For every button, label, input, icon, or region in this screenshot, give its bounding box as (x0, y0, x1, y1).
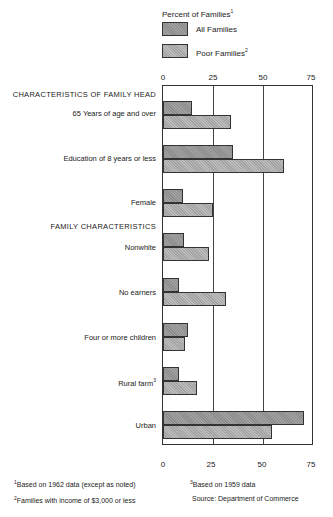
bar-poor-education (163, 159, 284, 173)
category-label: 65 Years of age and over (73, 109, 156, 118)
legend-label-text: Poor Families (196, 49, 245, 58)
category-label-text: Female (131, 198, 156, 207)
bar-poor-urban (163, 425, 272, 439)
bar-all-rural-farm (163, 367, 179, 381)
bar-poor-65-and-over (163, 115, 231, 129)
category-label-text: Four or more children (84, 333, 156, 342)
bar-poor-four-children (163, 337, 185, 351)
category-label: Nonwhite (125, 243, 156, 252)
legend-label-all-families: All Families (196, 25, 237, 34)
source-note: Source: Department of Commerce (192, 495, 299, 502)
section-family-characteristics: FAMILY CHARACTERISTICS (50, 222, 156, 231)
category-label: Four or more children (84, 333, 156, 342)
category-label-text: No earners (119, 288, 156, 297)
bottom-tick-50: 50 (258, 460, 267, 469)
category-label-text: 65 Years of age and over (73, 109, 156, 118)
bar-all-65-and-over (163, 101, 192, 115)
legend-swatch-poor-families (162, 44, 188, 58)
category-label: Urban (136, 421, 156, 430)
footnote-marker: 1 (230, 8, 233, 14)
footnote-marker: 3 (153, 377, 156, 383)
category-label-text: Urban (136, 421, 156, 430)
footnote-text: Based on 1962 data (except as noted) (17, 481, 136, 488)
legend-label-poor-families: Poor Families2 (196, 47, 248, 58)
bottom-tick-25: 25 (207, 460, 216, 469)
plot-area (162, 85, 313, 445)
gridline-25 (213, 86, 214, 444)
bar-poor-female (163, 203, 213, 217)
footnote-2: 2Families with income of $3,000 or less (14, 495, 135, 504)
category-label-text: Rural farm (118, 379, 153, 388)
category-label: Rural farm3 (118, 377, 156, 388)
top-tick-75: 75 (307, 73, 316, 82)
bar-all-urban (163, 411, 304, 425)
bar-all-no-earners (163, 278, 179, 292)
bar-poor-nonwhite (163, 247, 209, 261)
bar-all-nonwhite (163, 233, 184, 247)
legend-title: Percent of Families1 (162, 8, 233, 19)
footnote-text: Families with income of $3,000 or less (17, 497, 136, 504)
category-label: No earners (119, 288, 156, 297)
bottom-tick-75: 75 (307, 460, 316, 469)
section-family-head: CHARACTERISTICS OF FAMILY HEAD (13, 90, 156, 99)
category-label-text: Nonwhite (125, 243, 156, 252)
bar-all-four-children (163, 323, 188, 337)
footnote-3: 3Based on 1959 data (190, 479, 255, 488)
footnote-text: Based on 1959 data (193, 481, 256, 488)
bottom-tick-0: 0 (161, 460, 165, 469)
gridline-50 (263, 86, 264, 444)
legend-swatch-all-families (162, 22, 188, 36)
top-tick-0: 0 (161, 73, 165, 82)
bar-all-female (163, 189, 183, 203)
bar-all-education (163, 145, 233, 159)
bar-poor-no-earners (163, 292, 226, 306)
footnote-marker: 2 (245, 47, 248, 53)
category-label-text: Education of 8 years or less (63, 154, 156, 163)
legend-title-text: Percent of Families (162, 10, 230, 19)
bar-poor-rural-farm (163, 381, 197, 395)
footnote-1: 1Based on 1962 data (except as noted) (14, 479, 135, 488)
category-label: Education of 8 years or less (63, 154, 156, 163)
category-label: Female (131, 198, 156, 207)
top-tick-25: 25 (209, 73, 218, 82)
top-tick-50: 50 (259, 73, 268, 82)
legend-label-text: All Families (196, 25, 237, 34)
